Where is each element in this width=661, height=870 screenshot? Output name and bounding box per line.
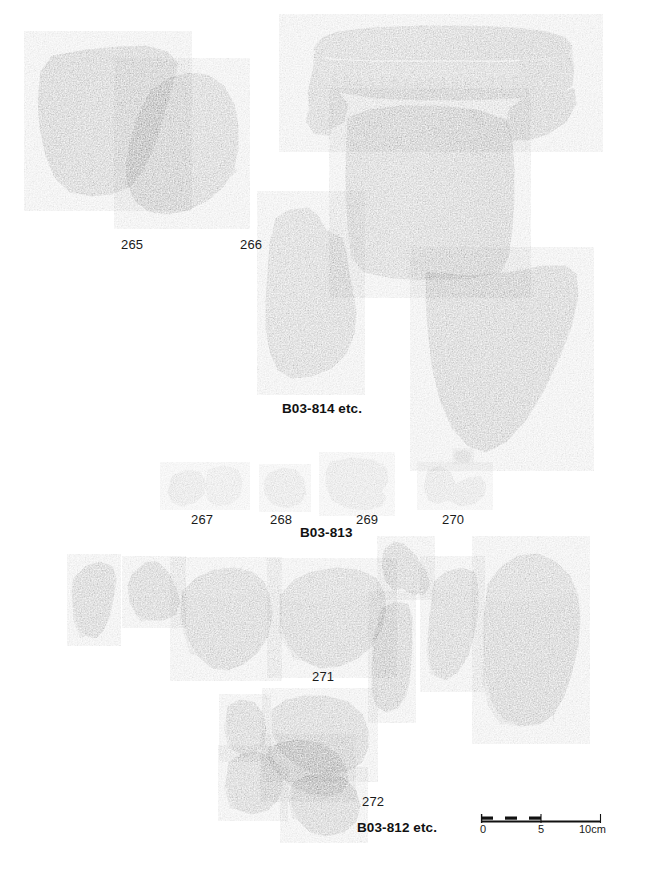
sherd-266-body-right bbox=[426, 266, 578, 452]
sherd-label-271: 271 bbox=[312, 670, 334, 683]
sherd-271-h bbox=[482, 554, 580, 726]
sherd-label-266: 266 bbox=[240, 238, 262, 251]
vessel-266-neck bbox=[346, 106, 514, 280]
sherd-271-d bbox=[278, 568, 386, 668]
sherd-270 bbox=[424, 466, 486, 506]
group-caption-b03-813: B03-813 bbox=[300, 526, 353, 540]
sherd-label-265: 265 bbox=[121, 238, 143, 251]
sherd-label-268: 268 bbox=[270, 513, 292, 526]
sherd-271-e bbox=[372, 602, 412, 712]
rim-impressed-notches bbox=[331, 71, 553, 93]
scale-tick-0: 0 bbox=[480, 824, 486, 835]
sherd-label-272: 272 bbox=[362, 795, 384, 808]
sherd-label-269: 269 bbox=[356, 513, 378, 526]
sherd-272-b bbox=[272, 696, 368, 774]
scale-bar: 0 5 10cm bbox=[480, 810, 604, 840]
group-caption-b03-814: B03-814 etc. bbox=[282, 402, 362, 416]
sherd-271-g bbox=[426, 568, 479, 680]
sherd-266-body-left bbox=[266, 208, 356, 378]
sherd-265 bbox=[38, 46, 178, 196]
sherd-271-c bbox=[180, 568, 272, 670]
pottery-plate: 265 266 B03-814 etc. 267 268 269 270 B03… bbox=[0, 0, 661, 870]
sherd-272-c bbox=[268, 740, 348, 796]
sherd-272-e bbox=[288, 774, 360, 836]
group-caption-b03-812: B03-812 etc. bbox=[357, 821, 437, 835]
sherd-label-267: 267 bbox=[191, 513, 213, 526]
sherd-271-f bbox=[382, 542, 430, 594]
sherd-photo-layer bbox=[0, 0, 661, 870]
sherd-268 bbox=[264, 468, 306, 508]
sherd-272-a bbox=[224, 700, 266, 756]
vessel-266-rim bbox=[306, 26, 576, 140]
sherd-chip-above-270 bbox=[454, 450, 472, 462]
sherd-267 bbox=[168, 466, 242, 506]
scale-tick-10cm: 10cm bbox=[579, 824, 606, 835]
sherd-272-d bbox=[224, 752, 282, 814]
sherd-label-270: 270 bbox=[442, 513, 464, 526]
sherd-271-a bbox=[72, 562, 116, 638]
sherd-269 bbox=[326, 458, 388, 510]
scale-tick-5: 5 bbox=[538, 824, 544, 835]
sherd-271-b bbox=[128, 562, 180, 622]
sherd-266-left-piece bbox=[126, 73, 238, 214]
